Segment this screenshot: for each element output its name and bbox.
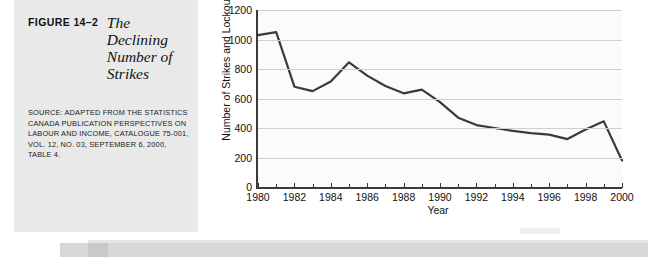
y-gridline — [258, 99, 622, 100]
source-line-3: LABOUR AND INCOME, CATALOGUE 75-001, — [28, 129, 224, 140]
x-tick-label: 1996 — [538, 191, 561, 203]
figure-title-line-1: The — [107, 14, 130, 31]
figure-title-line-2: Declining — [107, 31, 168, 48]
x-tick-label: 1992 — [465, 191, 488, 203]
figure-title-line-4: Strikes — [107, 65, 149, 82]
x-tick — [276, 184, 277, 188]
figure-page: FIGURE 14–2 The Declining Number of Stri… — [0, 0, 648, 257]
x-axis-label: Year — [256, 204, 620, 216]
x-tick — [258, 183, 259, 188]
y-gridline — [258, 128, 622, 129]
y-tick-label: 1200 — [229, 4, 252, 16]
x-tick — [313, 184, 314, 188]
x-tick — [549, 183, 550, 188]
source-line-5: TABLE 4. — [28, 150, 224, 161]
x-tick — [349, 184, 350, 188]
x-tick — [422, 184, 423, 188]
x-tick-label: 1986 — [356, 191, 379, 203]
page-smudge — [520, 228, 560, 234]
y-gridline — [258, 158, 622, 159]
x-tick — [476, 183, 477, 188]
figure-source-note: SOURCE: ADAPTED FROM THE STATISTICS CANA… — [28, 108, 224, 161]
x-tick — [440, 183, 441, 188]
y-axis-label: Number of Strikes and Lockouts — [220, 0, 232, 146]
x-tick-label: 1984 — [319, 191, 342, 203]
chart: Number of Strikes and Lockouts 020040060… — [198, 0, 638, 232]
x-tick-label: 2000 — [610, 191, 633, 203]
x-tick-label: 1994 — [501, 191, 524, 203]
y-tick-label: 600 — [234, 93, 252, 105]
figure-title: The Declining Number of Strikes — [107, 14, 203, 82]
page-edge-tab — [88, 243, 108, 257]
y-tick-label: 400 — [234, 122, 252, 134]
source-line-2: CANADA PUBLICATION PERSPECTIVES ON — [28, 119, 224, 130]
plot-area: 0200400600800100012001980198219841986198… — [256, 10, 622, 189]
x-tick — [294, 183, 295, 188]
y-tick-label: 800 — [234, 63, 252, 75]
caption-inner: FIGURE 14–2 The Declining Number of Stri… — [28, 14, 224, 161]
x-tick — [567, 184, 568, 188]
x-tick-label: 1990 — [428, 191, 451, 203]
x-tick — [367, 183, 368, 188]
y-tick-label: 200 — [234, 152, 252, 164]
x-tick — [622, 183, 623, 188]
x-tick — [513, 183, 514, 188]
page-edge-band — [60, 243, 648, 257]
x-tick-label: 1982 — [283, 191, 306, 203]
figure-heading: FIGURE 14–2 The Declining Number of Stri… — [28, 14, 224, 82]
series-polyline — [258, 32, 622, 160]
x-tick — [404, 183, 405, 188]
x-tick — [458, 184, 459, 188]
y-tick-label: 1000 — [229, 34, 252, 46]
x-tick — [385, 184, 386, 188]
source-line-1: SOURCE: ADAPTED FROM THE STATISTICS — [28, 108, 224, 119]
source-line-4: VOL. 12, NO. 03, SEPTEMBER 6, 2000, — [28, 140, 224, 151]
x-tick-label: 1988 — [392, 191, 415, 203]
x-tick — [331, 183, 332, 188]
x-tick — [586, 183, 587, 188]
y-gridline — [258, 40, 622, 41]
y-gridline — [258, 69, 622, 70]
x-tick-label: 1980 — [246, 191, 269, 203]
y-gridline — [258, 10, 622, 11]
x-tick — [531, 184, 532, 188]
x-tick-label: 1998 — [574, 191, 597, 203]
x-tick — [604, 184, 605, 188]
x-tick — [495, 184, 496, 188]
figure-title-line-3: Number of — [107, 48, 173, 65]
figure-number: FIGURE 14–2 — [28, 14, 98, 28]
